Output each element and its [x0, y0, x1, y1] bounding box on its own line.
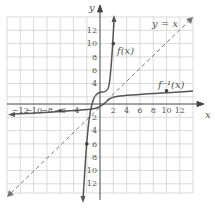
svg-text:4: 4 — [124, 106, 129, 115]
svg-text:12: 12 — [175, 106, 185, 115]
svg-text:6: 6 — [137, 106, 142, 115]
svg-text:12: 12 — [87, 179, 97, 188]
svg-text:8: 8 — [92, 53, 97, 62]
function-inverse-graph: x y −12 −10 −8 −6 −4 2 4 6 8 10 12 12 10… — [0, 0, 215, 210]
svg-text:2: 2 — [111, 106, 116, 115]
svg-text:10: 10 — [87, 166, 97, 175]
x-axis-label: x — [205, 109, 211, 120]
finverse-label: f⁻¹(x) — [157, 79, 185, 90]
svg-text:12: 12 — [87, 26, 97, 35]
svg-text:6: 6 — [92, 66, 97, 75]
svg-text:10: 10 — [161, 106, 171, 115]
svg-text:10: 10 — [87, 39, 97, 48]
svg-text:8: 8 — [151, 106, 156, 115]
svg-text:6: 6 — [92, 140, 97, 149]
svg-text:4: 4 — [92, 79, 97, 88]
svg-text:−8: −8 — [41, 106, 53, 115]
svg-text:4: 4 — [92, 126, 97, 135]
f-label: f(x) — [116, 45, 134, 56]
svg-text:8: 8 — [92, 153, 97, 162]
y-axis-label: y — [88, 2, 95, 13]
identity-label: y = x — [151, 18, 178, 29]
